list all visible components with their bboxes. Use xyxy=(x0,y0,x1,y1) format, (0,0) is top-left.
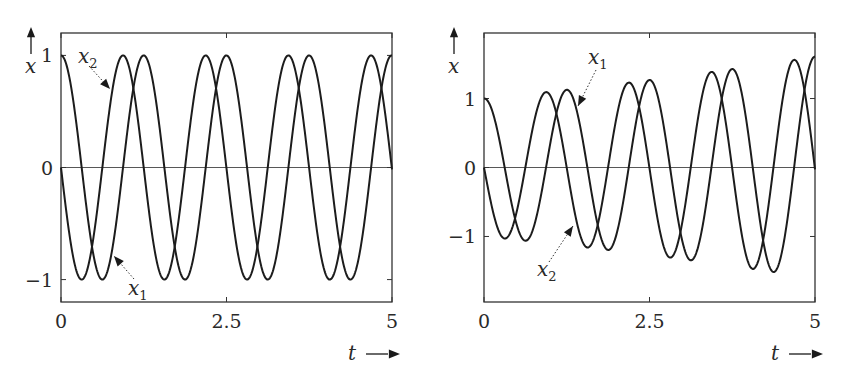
y-axis-arrow-icon xyxy=(27,27,35,37)
y-tick-label: 0 xyxy=(464,157,476,179)
right-plot-panel: −10102.55xtx1x2 xyxy=(448,27,823,365)
x-tick-label: 2.5 xyxy=(634,310,664,332)
x-tick-label: 0 xyxy=(55,310,67,332)
y-tick-label: 1 xyxy=(41,44,53,66)
x2-annotation-arrow-icon xyxy=(100,79,110,89)
y-tick-label: −1 xyxy=(25,269,53,291)
y-axis-label: x xyxy=(25,54,36,78)
left-plot-panel: −10102.55xtx2x1 xyxy=(25,27,400,365)
y-tick-label: 1 xyxy=(464,88,476,110)
y-axis-arrow-icon xyxy=(450,27,458,37)
y-axis-label: x xyxy=(448,54,459,78)
x-tick-label: 0 xyxy=(478,310,490,332)
x-axis-label: t xyxy=(771,341,780,365)
x-axis-label: t xyxy=(348,341,357,365)
series-label-x1: x1 xyxy=(128,276,148,303)
y-tick-label: 0 xyxy=(41,157,53,179)
chart-canvas: −10102.55xtx2x1 −10102.55xtx1x2 xyxy=(0,0,846,367)
y-tick-label: −1 xyxy=(448,225,476,247)
x-axis-arrow-icon xyxy=(389,350,400,359)
series-label-x2: x2 xyxy=(78,44,98,71)
x-tick-label: 2.5 xyxy=(211,310,241,332)
x-axis-arrow-icon xyxy=(812,350,823,359)
curve-x2 xyxy=(484,60,815,269)
series-label-x2: x2 xyxy=(537,257,557,284)
x2-annotation-arrow-icon xyxy=(564,226,573,237)
x-tick-label: 5 xyxy=(386,310,398,332)
x1-annotation-arrow-icon xyxy=(578,95,586,106)
x-tick-label: 5 xyxy=(809,310,821,332)
series-label-x1: x1 xyxy=(588,45,608,72)
